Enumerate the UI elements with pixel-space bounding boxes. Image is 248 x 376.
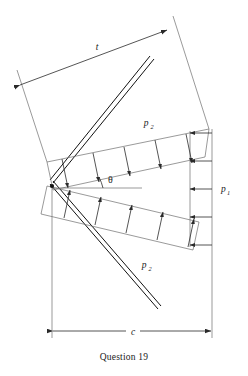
extension-line-right [173, 16, 209, 129]
extension-line-left [17, 70, 47, 162]
p2-upper-arrow-2 [93, 153, 99, 182]
p2-lower-outer-edge [41, 214, 193, 250]
figure-caption: Question 19 [0, 352, 248, 362]
engineering-diagram: t p 2 [0, 0, 248, 376]
p2-lower-arrow-3 [126, 205, 132, 233]
p2-lower-label-subscript: 2 [148, 265, 152, 272]
p2-upper-arrow-4 [155, 140, 161, 169]
lower-beam-edge-inner [53, 181, 161, 306]
p2-lower-arrow-2 [95, 197, 101, 225]
p1-label: p [220, 184, 226, 194]
p2-lower-left-cap [41, 186, 47, 214]
p2-lower-right-cap [193, 222, 199, 250]
theta-label: θ [108, 174, 113, 185]
p2-upper-outer-edge [47, 129, 209, 162]
dimension-p1: p 1 [190, 133, 230, 245]
lower-beam-edge-outer [50, 184, 158, 309]
dimension-t-label: t [96, 42, 99, 52]
dimension-c: c [53, 324, 211, 337]
p2-upper-arrow-3 [124, 147, 130, 176]
vertex-point [50, 184, 54, 188]
vertex-marker [50, 184, 54, 188]
p2-upper-arrow-1 [62, 159, 68, 188]
p2-lower-arrow-5 [188, 219, 194, 247]
figure-root: t p 2 [0, 0, 248, 376]
upper-beam-edge-inner [53, 59, 154, 183]
p2-lower-arrow-4 [157, 212, 163, 240]
upper-beam-edge-outer [50, 56, 150, 180]
p2-lower-label: p [141, 260, 147, 270]
theta-arc [99, 177, 103, 188]
dimension-t-line [20, 30, 167, 85]
p2-upper-inner-edge [53, 157, 205, 190]
p1-label-subscript: 1 [227, 189, 230, 196]
dimension-t: t [20, 30, 167, 85]
p2-upper-label-subscript: 2 [150, 123, 154, 130]
upper-beam [50, 56, 154, 183]
p2-upper-label: p [143, 118, 149, 128]
angle-theta: θ [99, 174, 113, 188]
p2-upper-arrow-5 [186, 134, 192, 163]
